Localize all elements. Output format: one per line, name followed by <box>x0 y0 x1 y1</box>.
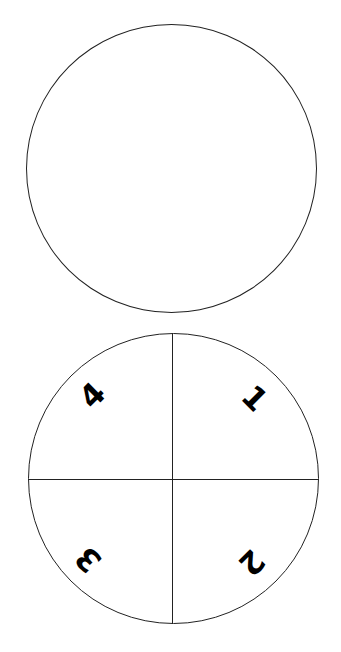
horizontal-divider <box>28 479 319 480</box>
empty-circle <box>26 24 317 313</box>
